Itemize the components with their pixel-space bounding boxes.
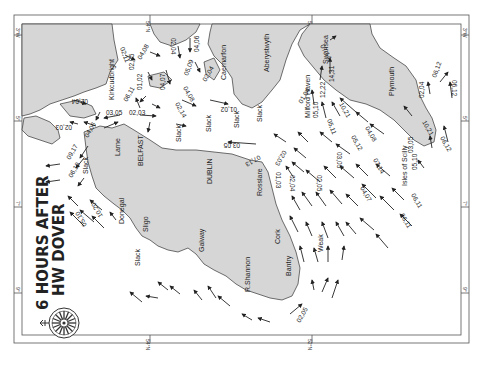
rate-label: 06,12 xyxy=(430,60,442,78)
rate-label: 05,10 xyxy=(411,153,418,170)
rate-label: 05,11 xyxy=(326,118,338,136)
lon-label-left-7: 7° xyxy=(15,201,21,206)
lon-label-right-5: 5° xyxy=(462,116,468,121)
rate-label: 12,22 xyxy=(319,81,326,98)
rate-label: 05,10 xyxy=(73,210,87,228)
rate-label: 02,03 xyxy=(55,124,72,131)
lon-label-left-3w: 3°W xyxy=(15,28,21,38)
lon-label-right-9: 9° xyxy=(462,287,468,292)
tidal-stream-map: 54°N 52°N 54°N 52°N 3°W 5° 7° 9° 3°W 5° … xyxy=(0,0,488,373)
rate-label: 02,14 xyxy=(174,101,188,119)
compass-rose-icon xyxy=(40,308,79,338)
lon-label-right-3w: 3°W xyxy=(462,28,468,38)
note-slack: Slack xyxy=(205,114,212,132)
rate-label: 07,14 xyxy=(372,157,386,175)
label-aberystwyth: Aberystwyth xyxy=(263,34,271,72)
rate-label: 01,02 xyxy=(220,106,237,113)
label-belfast: BELFAST xyxy=(137,135,144,166)
note-slack: Slack xyxy=(134,248,141,266)
rate-label: 05,12 xyxy=(350,134,364,152)
rate-label: 04,08 xyxy=(136,43,150,61)
label-donegal: Donegal xyxy=(118,197,126,224)
lon-label-left-9: 9° xyxy=(15,287,21,292)
rate-label: 14,31 xyxy=(328,65,335,82)
label-dublin: DUBLIN xyxy=(206,158,213,184)
rate-label: 03,05 xyxy=(407,136,414,153)
map-title: 6 HOURS AFTER HW DOVER xyxy=(34,175,68,310)
label-kirkcudbright: Kirkcudbright xyxy=(108,59,116,100)
rate-label: 06,11 xyxy=(410,192,424,210)
label-caernarfon: Caernarfon xyxy=(220,45,227,80)
rate-label: 01,02 xyxy=(136,73,143,90)
label-sligo: Sligo xyxy=(142,216,150,232)
land-scotland-isles xyxy=(22,116,60,144)
rate-label: 01,03 xyxy=(275,172,282,189)
rate-label: 02,04 xyxy=(418,81,425,98)
rate-label: 05,09 xyxy=(182,58,194,76)
note-slack: Slack xyxy=(175,124,182,142)
rate-label: 04,08 xyxy=(364,125,378,143)
rate-label: 06,12 xyxy=(439,135,453,153)
label-cork: Cork xyxy=(274,229,281,244)
lat-label-bottom-54: 54°N xyxy=(145,339,151,351)
label-galway: Galway xyxy=(198,228,206,252)
rate-label: 09,17 xyxy=(65,143,79,161)
rate-label: 03,05 xyxy=(106,109,123,116)
lat-label-bottom-52: 52°N xyxy=(307,339,313,351)
label-bantry: Bantry xyxy=(285,255,293,276)
label-plymouth: Plymouth xyxy=(388,67,396,96)
rate-label: 04,08 xyxy=(182,85,196,103)
lon-label-right-7: 7° xyxy=(462,201,468,206)
rate-label: 04,06 xyxy=(193,35,200,52)
rate-label: 02,05 xyxy=(128,53,135,70)
label-shannon: R.Shannon xyxy=(244,257,251,292)
rate-label: 06,11 xyxy=(122,85,136,103)
lon-label-left-5: 5° xyxy=(15,116,21,121)
rate-label: 02,03 xyxy=(274,150,288,168)
rate-label: 04,07 xyxy=(159,73,166,90)
note-weak: Weak xyxy=(317,234,324,252)
lat-label-top-54: 54°N xyxy=(145,21,151,33)
rate-label: 10,21 xyxy=(338,101,352,119)
rate-label: 03,05 xyxy=(336,152,343,169)
rate-label: 02,05 xyxy=(316,175,323,192)
label-rosslare: Rosslare xyxy=(256,168,263,196)
rate-label: 05,10 xyxy=(312,101,319,118)
rate-label: 02,04 xyxy=(170,38,177,55)
rate-label: 06,10 xyxy=(67,161,81,179)
rate-label: 02,04 xyxy=(289,175,296,192)
title-line-2: HW DOVER xyxy=(50,203,68,296)
rate-label: 06,12 xyxy=(451,80,458,97)
note-slack: Slack xyxy=(256,104,263,122)
label-larne: Larne xyxy=(114,138,121,156)
